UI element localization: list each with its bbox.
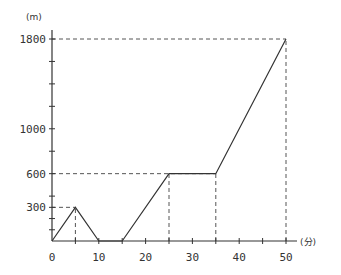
x-tick-label: 0 — [49, 251, 56, 264]
y-tick-label: 600 — [26, 168, 46, 181]
y-axis-unit: (m) — [26, 12, 42, 22]
x-tick-label: 40 — [233, 251, 246, 264]
x-tick-label: 30 — [186, 251, 199, 264]
x-tick-label: 50 — [279, 251, 292, 264]
line-chart: 0102030405030060010001800 (m) (分) — [0, 0, 341, 275]
y-tick-label: 1000 — [20, 123, 47, 136]
tick-marks — [49, 39, 286, 244]
x-axis-unit: (分) — [300, 237, 316, 247]
axes — [52, 30, 297, 241]
reference-dashed-lines — [52, 39, 286, 241]
y-tick-label: 300 — [26, 201, 46, 214]
x-tick-label: 20 — [139, 251, 152, 264]
x-tick-label: 10 — [92, 251, 105, 264]
y-tick-label: 1800 — [20, 33, 47, 46]
